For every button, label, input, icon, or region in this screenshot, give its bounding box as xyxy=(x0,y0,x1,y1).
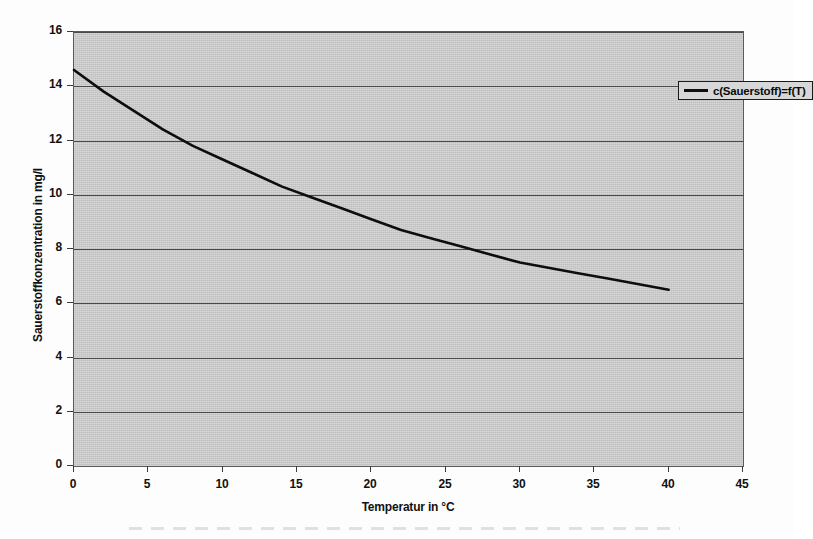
x-tick-label-10: 10 xyxy=(202,477,242,491)
y-axis-title: Sauerstoffkonzentration in mg/l xyxy=(31,65,45,445)
x-tick-label-20: 20 xyxy=(350,477,390,491)
y-tick-mark-16 xyxy=(67,31,73,32)
y-tick-mark-12 xyxy=(67,140,73,141)
y-tick-label-16: 16 xyxy=(36,23,62,37)
x-tick-mark-15 xyxy=(296,466,297,472)
y-tick-mark-6 xyxy=(67,302,73,303)
series-line-c-sauerstoff xyxy=(74,32,743,466)
y-tick-mark-4 xyxy=(67,357,73,358)
x-tick-mark-45 xyxy=(742,466,743,472)
x-axis-title: Temperatur in °C xyxy=(73,500,743,514)
y-tick-label-0: 0 xyxy=(36,457,62,471)
x-tick-label-15: 15 xyxy=(276,477,316,491)
legend-line-swatch xyxy=(684,89,708,92)
y-tick-mark-14 xyxy=(67,85,73,86)
scan-artifact xyxy=(120,527,680,530)
x-tick-mark-25 xyxy=(445,466,446,472)
x-tick-mark-35 xyxy=(593,466,594,472)
y-tick-mark-2 xyxy=(67,411,73,412)
x-tick-label-0: 0 xyxy=(53,477,93,491)
y-tick-mark-8 xyxy=(67,248,73,249)
x-tick-mark-30 xyxy=(519,466,520,472)
x-tick-label-30: 30 xyxy=(499,477,539,491)
x-tick-mark-20 xyxy=(370,466,371,472)
plot-area: c(Sauerstoff)=f(T) xyxy=(73,31,744,467)
x-tick-mark-5 xyxy=(147,466,148,472)
x-tick-label-25: 25 xyxy=(425,477,465,491)
x-tick-mark-10 xyxy=(222,466,223,472)
x-tick-label-35: 35 xyxy=(573,477,613,491)
x-tick-mark-0 xyxy=(73,466,74,472)
x-tick-mark-40 xyxy=(668,466,669,472)
x-tick-label-5: 5 xyxy=(127,477,167,491)
legend-label: c(Sauerstoff)=f(T) xyxy=(713,85,806,97)
x-tick-label-40: 40 xyxy=(648,477,688,491)
x-tick-label-45: 45 xyxy=(722,477,762,491)
y-tick-mark-10 xyxy=(67,194,73,195)
chart-legend: c(Sauerstoff)=f(T) xyxy=(678,81,813,100)
